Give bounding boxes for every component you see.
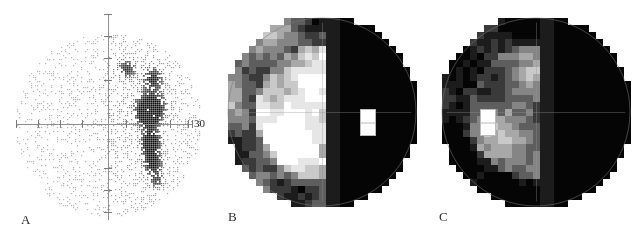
panel-b-grayscale-map: B bbox=[215, 0, 430, 239]
panel-a-axis-tick-label-30: 30 bbox=[194, 118, 205, 129]
figure-visual-field-panels: 30 A B C bbox=[0, 0, 644, 239]
panel-label-c: C bbox=[439, 210, 448, 223]
panel-c-canvas bbox=[429, 0, 644, 239]
panel-label-a: A bbox=[21, 213, 31, 226]
panel-c-grayscale-map: C bbox=[429, 0, 644, 239]
panel-a-canvas bbox=[0, 0, 215, 239]
panel-label-b: B bbox=[228, 210, 237, 223]
panel-a-dot-density-map: 30 A bbox=[0, 0, 215, 239]
panel-b-canvas bbox=[215, 0, 430, 239]
